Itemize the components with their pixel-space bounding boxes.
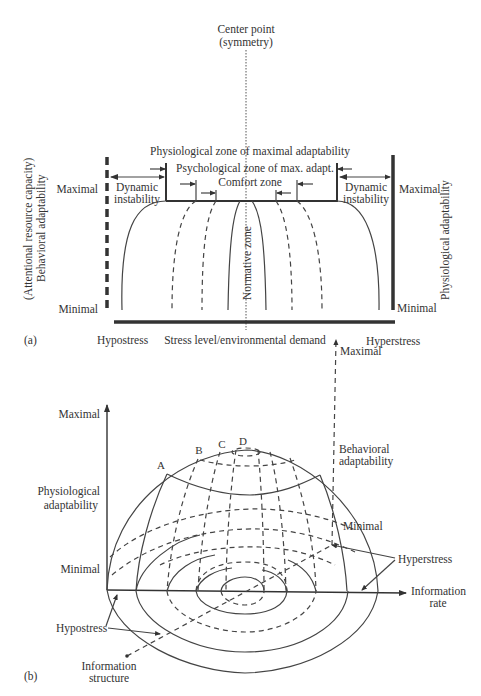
point-b-label: B xyxy=(195,444,202,456)
psych-left-curve xyxy=(172,201,196,310)
meridian-b-right xyxy=(290,458,316,591)
normative-left-curve xyxy=(228,201,240,310)
y-min-label-b: Minimal xyxy=(60,563,100,575)
y-axis-title-b-2: adaptability xyxy=(44,499,99,512)
right-max-label: Maximal xyxy=(399,183,441,195)
latitude-dash-1 xyxy=(200,460,295,466)
panel-b-label: (b) xyxy=(24,670,38,683)
beh-max-label: Maximal xyxy=(340,345,382,357)
base-ring-3 xyxy=(167,591,316,632)
meridian-d-left xyxy=(226,450,236,591)
center-point-label: Center point xyxy=(217,23,275,36)
x-axis-title-b-1: Information xyxy=(411,585,466,597)
comfort-right-curve xyxy=(276,201,292,310)
base-ring-2 xyxy=(136,591,348,652)
dome-outline xyxy=(107,450,378,591)
hypostress-label-b: Hypostress xyxy=(56,622,108,635)
hyperstress-pointer-1 xyxy=(332,545,395,558)
outer-right-curve xyxy=(337,201,379,310)
panel-b: A B C D Maximal Physiological adaptabili… xyxy=(24,340,466,684)
left-axis-title-2: Behavioral adaptability xyxy=(35,174,48,282)
center-point-sublabel: (symmetry) xyxy=(219,36,273,49)
panel-a-label: (a) xyxy=(24,334,37,347)
meridian-b-left xyxy=(167,459,198,591)
x-axis-b xyxy=(107,590,406,593)
physiological-zone-label: Physiological zone of maximal adaptabili… xyxy=(150,145,350,158)
comfort-left-curve xyxy=(202,201,216,310)
latitude-dash-2 xyxy=(110,509,355,557)
beh-min-label: Minimal xyxy=(343,520,383,532)
point-c-label: C xyxy=(218,438,225,450)
z-axis-title-b-1: Information xyxy=(82,660,137,672)
y-max-label-b: Maximal xyxy=(58,408,100,420)
meridian-c-left xyxy=(198,452,220,591)
figure: Center point (symmetry) Physiological zo… xyxy=(0,0,481,696)
left-max-label: Maximal xyxy=(56,183,98,195)
hypostress-pointer-1 xyxy=(106,595,117,626)
base-ring-5 xyxy=(221,591,264,605)
beh-axis-title-1: Behavioral xyxy=(339,443,389,455)
outer-left-curve xyxy=(122,201,166,310)
psych-right-curve xyxy=(297,201,322,310)
right-axis-title: Physiological adaptability xyxy=(439,180,452,300)
point-a-label: A xyxy=(157,459,165,471)
dyn-left-sublabel: instability xyxy=(114,193,160,206)
ring-inner-right-2 xyxy=(288,560,316,591)
comfort-zone-label: Comfort zone xyxy=(218,176,282,188)
meridian-c-right xyxy=(270,452,286,591)
hyperstress-label-b: Hyperstress xyxy=(398,553,453,566)
left-min-label: Minimal xyxy=(58,303,98,315)
beh-axis-title-2: adaptability xyxy=(339,455,394,468)
right-min-label: Minimal xyxy=(397,302,437,314)
y-axis-title-b-1: Physiological xyxy=(37,485,100,498)
ring-inner-left-2 xyxy=(167,555,215,591)
x-axis-title-b-2: rate xyxy=(429,597,446,609)
normative-right-curve xyxy=(252,201,266,310)
hypostress-label-a: Hypostress xyxy=(97,334,149,347)
left-axis-title-1: (Attentional resource capacity) xyxy=(22,157,35,300)
base-ring-5-top xyxy=(221,577,264,591)
z-axis-b xyxy=(127,545,332,656)
psychological-zone-label: Psychological zone of max. adapt. xyxy=(176,162,334,175)
hyperstress-pointer-2 xyxy=(362,560,395,590)
x-axis-title-a: Stress level/environmental demand xyxy=(164,334,326,346)
latitude-top xyxy=(167,474,320,495)
z-axis-title-b-2: structure xyxy=(89,672,129,684)
panel-a: Center point (symmetry) Physiological zo… xyxy=(22,23,452,348)
normative-zone-label: Normative zone xyxy=(241,226,253,300)
point-d-label: D xyxy=(239,435,247,447)
